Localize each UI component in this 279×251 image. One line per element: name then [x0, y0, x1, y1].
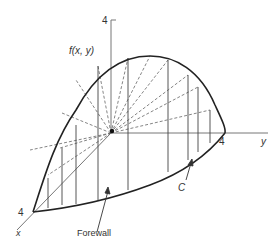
origin-dot — [110, 129, 114, 133]
x-axis-label: x — [15, 228, 21, 238]
forewall-label: Forewall — [77, 228, 111, 238]
y-axis-label: y — [260, 136, 267, 147]
y-tick-label: 4 — [219, 136, 225, 147]
axes — [17, 20, 268, 230]
function-label: f(x, y) — [69, 45, 94, 56]
curve-c-label: C — [178, 182, 186, 193]
x-axis — [17, 133, 111, 230]
surface-diagram: 4 f(x, y) 4 y 4 x Forewall C — [0, 0, 279, 251]
z-tick-label: 4 — [102, 15, 108, 26]
dashed-radials — [30, 56, 210, 175]
x-tick-label: 4 — [18, 207, 24, 218]
annotation-arrows — [97, 159, 193, 232]
